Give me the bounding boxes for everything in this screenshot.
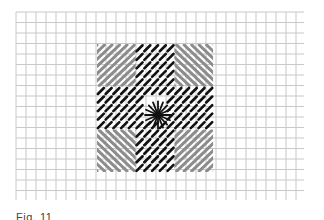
stitch-block-black-tent xyxy=(137,45,174,85)
stitch-block-star-eye xyxy=(137,88,174,129)
figure-caption: Fig. 11 xyxy=(16,212,52,220)
stitch-block-black-tent xyxy=(137,131,174,171)
stitch-diagram xyxy=(0,0,324,220)
star-eye-stitch xyxy=(145,101,171,128)
stitch-block-black-tent xyxy=(175,88,212,128)
